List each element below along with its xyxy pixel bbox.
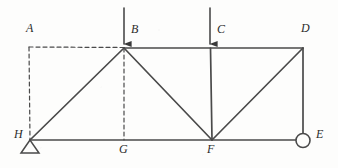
node-label-C: C [217,23,225,35]
member-diagonal-FD [212,48,303,140]
member-diagonal-HB [30,48,124,140]
truss-drawing-canvas [0,0,338,168]
node-label-B: B [131,23,138,35]
pin-support-H-icon [21,140,39,153]
roller-support-E-icon [296,134,310,148]
node-label-H: H [14,128,23,140]
truss-figure: A B C D E F G H [0,0,338,168]
node-label-A: A [26,22,33,34]
member-diagonal-BF [124,48,212,140]
node-label-D: D [301,22,310,34]
member-vertical-CF [211,48,213,140]
node-label-F: F [207,143,214,155]
dashed-line-AB-horizontal [29,47,124,48]
dashed-line-AH-vertical [29,47,30,140]
node-label-G: G [119,143,128,155]
node-label-E: E [316,128,323,140]
